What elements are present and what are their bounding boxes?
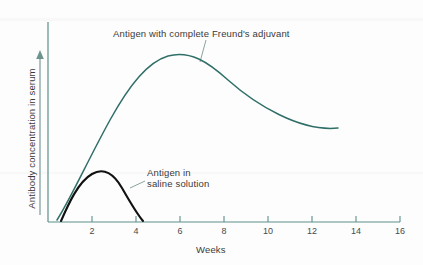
annotation-adjuvant: Antigen with complete Freund's adjuvant (113, 28, 290, 39)
x-axis-ticks (92, 216, 400, 222)
x-tick-label-6: 6 (172, 226, 188, 236)
x-axis-title: Weeks (196, 244, 226, 255)
x-tick-label-14: 14 (348, 226, 364, 236)
leader-line-adjuvant (200, 40, 206, 62)
x-tick-label-8: 8 (216, 226, 232, 236)
x-tick-label-4: 4 (128, 226, 144, 236)
leader-line-saline (130, 181, 145, 188)
y-axis-arrow-head (36, 50, 44, 59)
series-curve-saline (61, 171, 143, 221)
series-curve-adjuvant (57, 54, 338, 220)
x-tick-label-2: 2 (84, 226, 100, 236)
x-tick-label-16: 16 (392, 226, 408, 236)
figure-container: Antigen with complete Freund's adjuvant … (0, 0, 423, 265)
x-tick-label-10: 10 (260, 226, 276, 236)
x-tick-label-12: 12 (304, 226, 320, 236)
y-axis-title: Antibody concentration in serum (26, 44, 37, 234)
annotation-saline: Antigen in saline solution (147, 167, 209, 189)
